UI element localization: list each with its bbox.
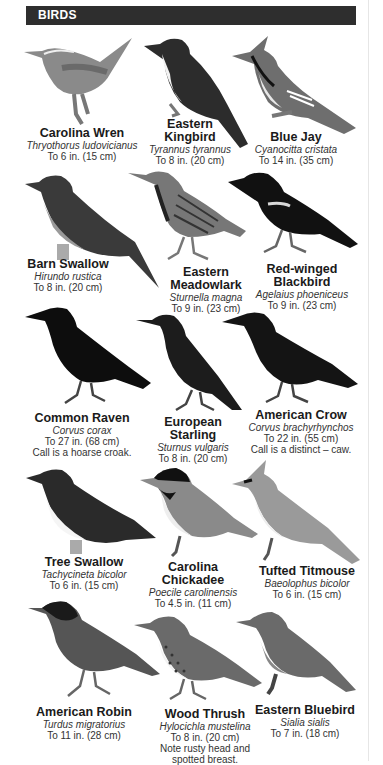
scientific-name: Baeolophus bicolor: [262, 578, 352, 589]
common-name: EasternKingbird: [140, 118, 240, 144]
page-edge: [368, 0, 369, 761]
common-name: Tufted Titmouse: [242, 565, 372, 578]
scientific-name: Cyanocitta cristata: [246, 144, 346, 155]
scientific-name: Hirundo rustica: [12, 271, 124, 282]
size: To 7 in. (18 cm): [250, 728, 360, 739]
note: Call is a hoarse croak.: [12, 447, 152, 458]
size: To 8 in. (20 cm): [12, 282, 124, 293]
scientific-name: Corvus corax: [12, 425, 152, 436]
size: To 6 in. (15 cm): [12, 151, 152, 162]
blue-jay-illustration: [232, 36, 360, 136]
scientific-name: Thryothorus ludovicianus: [12, 140, 152, 151]
bird-entry: Tufted Titmouse Baeolophus bicolor To 6 …: [262, 565, 352, 600]
common-name: EuropeanStarling: [148, 416, 238, 442]
size: To 11 in. (28 cm): [14, 730, 154, 741]
section-header: BIRDS: [26, 6, 356, 25]
american-crow-illustration: [222, 310, 360, 405]
common-name: Blue Jay: [246, 131, 346, 144]
bird-entry: American Crow Corvus brachyrhynchos To 2…: [240, 409, 362, 455]
size: To 6 in. (15 cm): [14, 580, 154, 591]
common-name: Tree Swallow: [14, 556, 154, 569]
bird-entry: American Robin Turdus migratorius To 11 …: [14, 706, 154, 741]
bird-entry: Red-wingedBlackbird Agelaius phoeniceus …: [243, 263, 361, 311]
section-title: BIRDS: [38, 8, 77, 22]
bird-entry: Blue Jay Cyanocitta cristata To 14 in. (…: [246, 131, 346, 166]
tufted-titmouse-illustration: [232, 460, 362, 565]
common-name: American Crow: [240, 409, 362, 422]
common-raven-illustration: [25, 305, 153, 405]
size: To 27 in. (68 cm): [12, 436, 152, 447]
bird-entry: Tree Swallow Tachycineta bicolor To 6 in…: [14, 556, 154, 591]
bird-entry: Eastern Bluebird Sialia sialis To 7 in. …: [250, 704, 360, 739]
common-name: Carolina Wren: [12, 127, 152, 140]
note: Call is a distinct – caw.: [240, 444, 362, 455]
size: To 6 in. (15 cm): [262, 589, 352, 600]
bird-entry: Carolina Wren Thryothorus ludovicianus T…: [12, 127, 152, 162]
scientific-name: Poecile carolinensis: [148, 587, 238, 598]
size: To 14 in. (35 cm): [246, 155, 346, 166]
scientific-name: Tachycineta bicolor: [14, 569, 154, 580]
scientific-name: Turdus migratorius: [14, 719, 154, 730]
scientific-name: Sialia sialis: [250, 717, 360, 728]
bird-entry: Barn Swallow Hirundo rustica To 8 in. (2…: [12, 258, 124, 293]
scientific-name: Agelaius phoeniceus: [243, 289, 361, 300]
tree-swallow-illustration: [26, 466, 158, 556]
carolina-wren-illustration: [22, 34, 137, 129]
scientific-name: Corvus brachyrhynchos: [240, 422, 362, 433]
red-winged-blackbird-illustration: [228, 168, 360, 258]
size: To 8 in. (20 cm): [148, 453, 238, 464]
common-name: CarolinaChickadee: [148, 561, 238, 587]
common-name: American Robin: [14, 706, 154, 719]
scientific-name: Sturnus vulgaris: [148, 442, 238, 453]
common-name: Red-wingedBlackbird: [243, 263, 361, 289]
common-name: Common Raven: [12, 412, 152, 425]
bird-entry: EasternKingbird Tyrannus tyrannus To 8 i…: [140, 118, 240, 166]
common-name: Eastern Bluebird: [250, 704, 360, 717]
scientific-name: Tyrannus tyrannus: [140, 144, 240, 155]
size: To 22 in. (55 cm): [240, 433, 362, 444]
eastern-bluebird-illustration: [236, 610, 358, 700]
bird-entry: EuropeanStarling Sturnus vulgaris To 8 i…: [148, 416, 238, 464]
note: Note rusty head andspotted breast.: [140, 743, 270, 765]
common-name: Barn Swallow: [12, 258, 124, 271]
bird-entry: Common Raven Corvus corax To 27 in. (68 …: [12, 412, 152, 458]
